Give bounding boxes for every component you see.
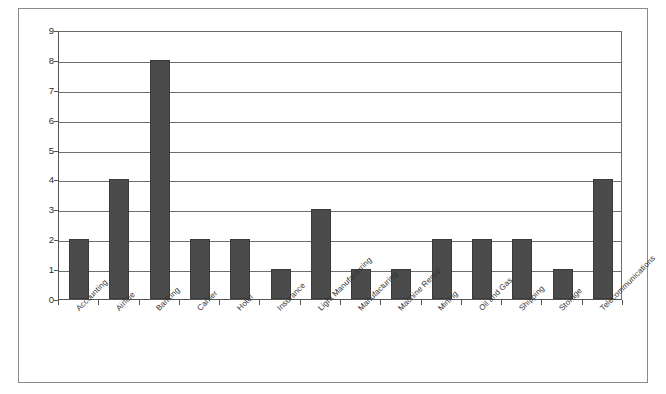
y-axis-tick-label: 2 bbox=[32, 235, 54, 245]
bar-chart: 9876543210 AccountingAirlineBankingCarri… bbox=[0, 0, 666, 394]
y-axis-tick-label: 5 bbox=[32, 146, 54, 156]
bar bbox=[69, 239, 89, 299]
bar bbox=[512, 239, 532, 299]
x-axis-tick-labels: AccountingAirlineBankingCarrierHotelInsu… bbox=[58, 307, 628, 387]
y-axis-tick-label: 1 bbox=[32, 265, 54, 275]
y-axis-tick-label: 3 bbox=[32, 205, 54, 215]
y-axis-tick-labels: 9876543210 bbox=[30, 31, 54, 300]
x-axis-tick-mark bbox=[582, 300, 583, 305]
bar bbox=[230, 239, 250, 299]
bar bbox=[150, 60, 170, 299]
bar bbox=[472, 239, 492, 299]
x-axis-tick-mark bbox=[541, 300, 542, 305]
x-axis-tick-mark bbox=[622, 300, 623, 305]
bar bbox=[190, 239, 210, 299]
y-axis-tick-label: 8 bbox=[32, 56, 54, 66]
y-axis-tick-label: 7 bbox=[32, 86, 54, 96]
x-axis-tick-marks bbox=[58, 300, 622, 306]
x-axis-tick-mark bbox=[300, 300, 301, 305]
x-axis-tick-mark bbox=[421, 300, 422, 305]
x-axis-tick-mark bbox=[340, 300, 341, 305]
bar bbox=[311, 209, 331, 299]
x-axis-tick-mark bbox=[179, 300, 180, 305]
bars-group bbox=[59, 31, 621, 299]
bar bbox=[593, 179, 613, 299]
bar bbox=[109, 179, 129, 299]
y-axis-tick-label: 0 bbox=[32, 295, 54, 305]
x-axis-tick-mark bbox=[98, 300, 99, 305]
x-axis-tick-mark bbox=[58, 300, 59, 305]
x-axis-tick-mark bbox=[461, 300, 462, 305]
y-axis-tick-label: 6 bbox=[32, 116, 54, 126]
x-axis-tick-mark bbox=[259, 300, 260, 305]
x-axis-tick-mark bbox=[380, 300, 381, 305]
y-axis-tick-label: 4 bbox=[32, 175, 54, 185]
x-axis-tick-mark bbox=[219, 300, 220, 305]
x-axis-tick-mark bbox=[501, 300, 502, 305]
y-axis-tick-label: 9 bbox=[32, 26, 54, 36]
x-axis-tick-mark bbox=[139, 300, 140, 305]
